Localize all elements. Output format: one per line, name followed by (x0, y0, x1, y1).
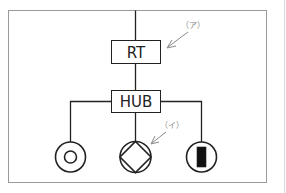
annotation-b: （イ） (151, 121, 184, 144)
router-node: RT (112, 41, 161, 64)
device-center-outer-icon (120, 142, 151, 173)
device-center (120, 142, 151, 173)
network-diagram: RT HUB （ア） （イ） (0, 0, 286, 193)
router-label: RT (127, 44, 146, 62)
device-left-outer-icon (56, 142, 86, 172)
hub-left-branch (71, 102, 112, 143)
hub-label: HUB (120, 93, 153, 111)
device-right (187, 142, 217, 172)
device-right-bar-icon (197, 147, 206, 167)
annotation-a-arrow-shaft (168, 32, 188, 47)
hub-node: HUB (112, 91, 161, 113)
device-left (56, 142, 86, 172)
annotation-b-label: （イ） (160, 121, 184, 130)
annotation-a: （ア） (167, 21, 205, 48)
annotation-a-label: （ア） (181, 21, 205, 30)
